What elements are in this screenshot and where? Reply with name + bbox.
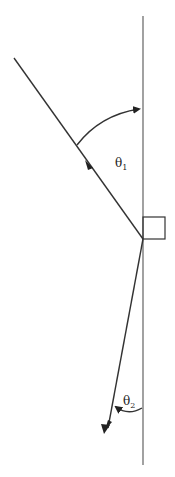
right-angle-box (143, 217, 165, 239)
theta1-label: θ1 (115, 156, 127, 172)
ray-diagram: θ1 θ2 (0, 0, 175, 477)
theta2-label: θ2 (123, 394, 135, 410)
incident-arrow-icon (85, 160, 93, 170)
outgoing-arrowhead-icon (101, 424, 110, 434)
incident-ray (14, 58, 143, 239)
angle-arc-theta1 (77, 109, 139, 145)
